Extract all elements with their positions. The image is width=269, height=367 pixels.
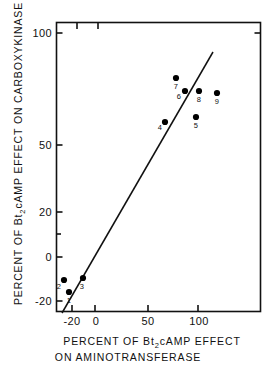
y-tick-label-50: 50 xyxy=(39,139,52,151)
marker-dot xyxy=(196,88,202,94)
point-label: 9 xyxy=(215,97,219,106)
y-axis-title-part1: PERCENT OF Bt xyxy=(12,214,24,305)
marker-dot xyxy=(214,90,220,96)
x-axis-title-part2: cAMP EFFECT xyxy=(160,335,241,347)
marker-dot xyxy=(173,75,179,81)
x-tick-label-100: 100 xyxy=(189,315,209,327)
data-point-8: 8 xyxy=(196,88,202,104)
marker-dot xyxy=(80,275,86,281)
y-tick-label-0: 0 xyxy=(45,251,52,263)
point-label: 8 xyxy=(197,95,201,104)
point-label: 7 xyxy=(174,82,178,91)
svg-text:PERCENT OF Bt2cAMP EFFECT ON C: PERCENT OF Bt2cAMP EFFECT ON CARBOXYKINA… xyxy=(12,2,27,305)
plot-canvas: 100 50 20 0 -20 -20 0 50 100 1 xyxy=(0,0,269,367)
x-tick-label-neg20: -20 xyxy=(63,315,80,327)
point-label: 6 xyxy=(177,92,181,101)
data-point-5: 5 xyxy=(193,114,199,130)
point-label: 4 xyxy=(158,123,162,132)
data-point-1: 1 xyxy=(66,289,72,305)
x-axis-title-line2: ON AMINOTRANSFERASE xyxy=(55,351,201,363)
y-axis-title: PERCENT OF Bt2cAMP EFFECT ON CARBOXYKINA… xyxy=(12,2,27,305)
y-tick-label-100: 100 xyxy=(32,27,52,39)
marker-dot xyxy=(182,88,188,94)
marker-dot xyxy=(66,289,72,295)
x-tick-label-50: 50 xyxy=(141,315,154,327)
y-axis-title-part2: cAMP EFFECT ON CARBOXYKINASE xyxy=(12,2,24,209)
point-label: 5 xyxy=(194,121,198,130)
marker-dot xyxy=(61,277,67,283)
x-tick-label-0: 0 xyxy=(93,315,100,327)
y-tick-label-neg20: -20 xyxy=(35,295,52,307)
scatter-plot-figure: 100 50 20 0 -20 -20 0 50 100 1 xyxy=(0,0,269,367)
marker-dot xyxy=(193,114,199,120)
point-label: 2 xyxy=(57,282,61,291)
x-axis-title-line1: PERCENT OF Bt2cAMP EFFECT xyxy=(63,335,240,350)
marker-dot xyxy=(162,119,168,125)
data-point-7: 7 xyxy=(173,75,179,91)
point-label: 1 xyxy=(67,296,71,305)
y-tick-label-20: 20 xyxy=(39,206,52,218)
point-label: 3 xyxy=(80,282,84,291)
data-point-9: 9 xyxy=(214,90,220,106)
x-axis-title-part1: PERCENT OF Bt xyxy=(63,335,154,347)
